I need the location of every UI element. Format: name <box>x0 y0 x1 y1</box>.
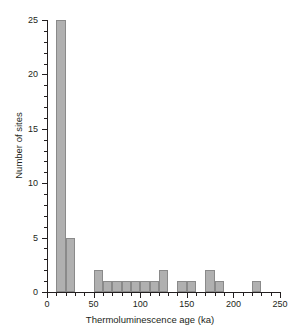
x-axis-tick <box>140 293 141 298</box>
x-axis-tick-label: 0 <box>32 299 62 310</box>
x-axis-minor-tick <box>103 293 104 296</box>
histogram-bar <box>177 281 186 292</box>
histogram-bar <box>66 238 75 292</box>
x-axis-minor-tick <box>56 293 57 296</box>
x-axis-minor-tick <box>243 293 244 296</box>
y-axis-minor-tick <box>44 42 47 43</box>
y-axis-minor-tick <box>44 248 47 249</box>
y-axis-minor-tick <box>44 227 47 228</box>
y-axis-minor-tick <box>44 205 47 206</box>
x-axis-minor-tick <box>66 293 67 296</box>
y-axis-minor-tick <box>44 161 47 162</box>
x-axis-minor-tick <box>75 293 76 296</box>
x-axis-minor-tick <box>168 293 169 296</box>
x-axis-minor-tick <box>112 293 113 296</box>
histogram-bar <box>112 281 121 292</box>
plot-area <box>47 14 280 292</box>
y-axis-tick-label: 0 <box>18 288 38 297</box>
histogram-bar <box>159 270 168 292</box>
y-axis-minor-tick <box>44 85 47 86</box>
y-axis-minor-tick <box>44 194 47 195</box>
y-axis-minor-tick <box>44 270 47 271</box>
x-axis-tick <box>94 293 95 298</box>
x-axis-tick <box>47 293 48 298</box>
y-axis-minor-tick <box>44 64 47 65</box>
y-axis-line <box>47 20 48 293</box>
histogram-bar <box>56 20 65 292</box>
x-axis-tick-label: 250 <box>265 299 295 310</box>
x-axis-minor-tick <box>177 293 178 296</box>
x-axis-minor-tick <box>205 293 206 296</box>
x-axis-tick-label: 150 <box>172 299 202 310</box>
y-axis-minor-tick <box>44 53 47 54</box>
y-axis-tick <box>42 238 47 239</box>
y-axis-tick <box>42 183 47 184</box>
y-axis-minor-tick <box>44 216 47 217</box>
y-axis-minor-tick <box>44 118 47 119</box>
y-axis-title: Number of sites <box>13 76 24 216</box>
x-axis-minor-tick <box>159 293 160 296</box>
histogram-bar <box>140 281 149 292</box>
y-axis-tick <box>42 74 47 75</box>
x-axis-tick-label: 50 <box>79 299 109 310</box>
histogram-bar <box>215 281 224 292</box>
histogram-figure: 0501001502002500510152025 Thermoluminesc… <box>0 0 300 336</box>
y-axis-tick-label: 25 <box>18 16 38 25</box>
y-axis-tick <box>42 292 47 293</box>
x-axis-minor-tick <box>252 293 253 296</box>
x-axis-tick <box>233 293 234 298</box>
x-axis-line <box>47 292 281 293</box>
y-axis-minor-tick <box>44 172 47 173</box>
x-axis-title: Thermoluminescence age (ka) <box>0 314 300 325</box>
histogram-bar <box>103 281 112 292</box>
x-axis-minor-tick <box>271 293 272 296</box>
x-axis-tick-label: 100 <box>125 299 155 310</box>
histogram-bar <box>187 281 196 292</box>
x-axis-minor-tick <box>150 293 151 296</box>
histogram-bar <box>150 281 159 292</box>
x-axis-minor-tick <box>84 293 85 296</box>
y-axis-tick <box>42 129 47 130</box>
histogram-bar <box>205 270 214 292</box>
x-axis-minor-tick <box>224 293 225 296</box>
y-axis-minor-tick <box>44 259 47 260</box>
x-axis-tick <box>187 293 188 298</box>
y-axis-minor-tick <box>44 140 47 141</box>
x-axis-minor-tick <box>196 293 197 296</box>
y-axis-minor-tick <box>44 31 47 32</box>
histogram-bar <box>252 281 261 292</box>
y-axis-minor-tick <box>44 281 47 282</box>
x-axis-minor-tick <box>122 293 123 296</box>
y-axis-minor-tick <box>44 96 47 97</box>
x-axis-tick <box>280 293 281 298</box>
y-axis-tick-label: 5 <box>18 234 38 243</box>
histogram-bar <box>94 270 103 292</box>
x-axis-minor-tick <box>215 293 216 296</box>
y-axis-minor-tick <box>44 107 47 108</box>
x-axis-minor-tick <box>131 293 132 296</box>
histogram-bar <box>122 281 131 292</box>
y-axis-tick <box>42 20 47 21</box>
y-axis-minor-tick <box>44 151 47 152</box>
histogram-bar <box>131 281 140 292</box>
x-axis-minor-tick <box>261 293 262 296</box>
x-axis-tick-label: 200 <box>218 299 248 310</box>
